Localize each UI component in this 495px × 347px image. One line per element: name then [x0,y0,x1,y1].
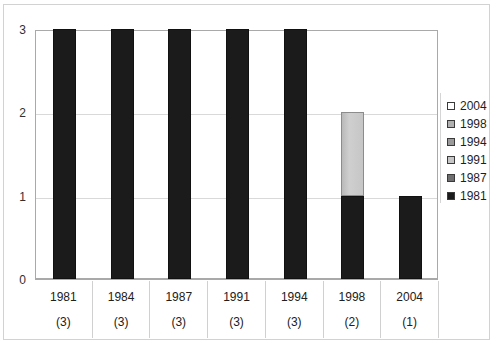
legend-label: 1991 [460,154,487,166]
category-table: 1981(3)1984(3)1987(3)1991(3)1994(3)1998(… [35,281,439,338]
plot-area [35,30,438,280]
bars-layer [36,31,437,279]
bar-segment[interactable] [399,196,422,279]
legend-label: 1998 [460,118,487,130]
category-count-label: (1) [381,315,438,329]
category-year-label: 1984 [93,290,150,304]
bar-segment[interactable] [111,29,134,279]
legend-label: 2004 [460,100,487,112]
category-column: 1981(3) [35,281,93,338]
category-year-label: 1987 [150,290,207,304]
legend-item-1987[interactable]: 1987 [447,169,492,186]
legend-swatch-icon [447,120,455,128]
legend-item-1994[interactable]: 1994 [447,133,492,150]
legend-swatch-icon [447,138,455,146]
legend-swatch-icon [447,156,455,164]
y-tick-label: 1 [4,191,26,203]
category-count-label: (3) [150,315,207,329]
legend-label: 1981 [460,190,487,202]
legend-swatch-icon [447,192,455,200]
legend-item-2004[interactable]: 2004 [447,97,492,114]
y-tick-label: 2 [4,107,26,119]
bar-1991[interactable] [226,29,249,279]
bar-segment[interactable] [284,29,307,279]
legend: 200419981994199119871981 [440,93,492,203]
category-column: 2004(1) [381,281,439,338]
chart-figure: 3210 1981(3)1984(3)1987(3)1991(3)1994(3)… [0,0,495,347]
bar-segment[interactable] [341,196,364,279]
legend-swatch-icon [447,102,455,110]
category-column: 1998(2) [324,281,382,338]
legend-label: 1987 [460,172,487,184]
category-count-label: (2) [324,315,381,329]
category-year-label: 1991 [208,290,265,304]
bar-segment[interactable] [53,29,76,279]
category-year-label: 1994 [266,290,323,304]
y-axis-ticks: 3210 [4,30,30,280]
bar-segment[interactable] [168,29,191,279]
category-count-label: (3) [93,315,150,329]
y-tick-label: 3 [4,24,26,36]
category-column: 1987(3) [150,281,208,338]
category-year-label: 1981 [35,290,92,304]
bar-1981[interactable] [53,29,76,279]
bar-2004[interactable] [399,29,422,279]
category-count-label: (3) [35,315,92,329]
legend-label: 1994 [460,136,487,148]
legend-item-1981[interactable]: 1981 [447,187,492,204]
bar-1994[interactable] [284,29,307,279]
bar-1998[interactable] [341,29,364,279]
legend-item-1991[interactable]: 1991 [447,151,492,168]
bar-segment[interactable] [341,112,364,195]
bar-1984[interactable] [111,29,134,279]
category-count-label: (3) [208,315,265,329]
category-column: 1984(3) [93,281,151,338]
category-column: 1994(3) [266,281,324,338]
bar-1987[interactable] [168,29,191,279]
figure-frame: 3210 1981(3)1984(3)1987(3)1991(3)1994(3)… [3,4,490,340]
category-column: 1991(3) [208,281,266,338]
y-tick-label: 0 [4,274,26,286]
bar-segment[interactable] [226,29,249,279]
legend-swatch-icon [447,174,455,182]
legend-item-1998[interactable]: 1998 [447,115,492,132]
category-count-label: (3) [266,315,323,329]
category-year-label: 1998 [324,290,381,304]
category-year-label: 2004 [381,290,438,304]
